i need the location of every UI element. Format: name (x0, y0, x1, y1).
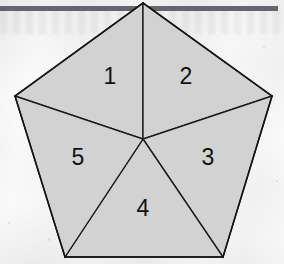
region-label-1: 1 (104, 63, 117, 89)
region-label-3: 3 (202, 144, 215, 170)
region-label-2: 2 (180, 63, 193, 89)
figure-page: 1 2 3 4 5 (0, 0, 284, 264)
pentagon-figure: 1 2 3 4 5 (0, 0, 284, 264)
region-label-4: 4 (137, 195, 150, 221)
region-label-5: 5 (72, 144, 85, 170)
